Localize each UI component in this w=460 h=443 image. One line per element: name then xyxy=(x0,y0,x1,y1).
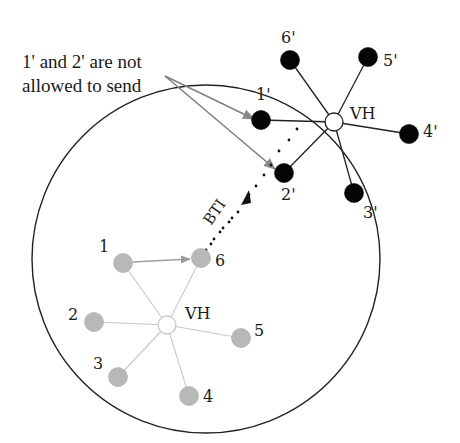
outer-node-label: 6' xyxy=(281,28,296,47)
inner-vh-hub-label: VH xyxy=(184,304,211,323)
outer-node-1-prime xyxy=(252,111,271,130)
pointer-to-1prime xyxy=(165,76,254,119)
outer-node-label: 1' xyxy=(256,85,271,104)
inner-node-label: 5 xyxy=(254,321,264,340)
inner-node-label: 4 xyxy=(203,387,213,406)
outer-cluster: 6'5'1'4'2'3'VH xyxy=(252,28,438,222)
outer-node-label: 4' xyxy=(423,122,438,141)
inner-node-label: 2 xyxy=(68,305,78,324)
inner-node-6 xyxy=(192,249,211,268)
outer-vh-hub xyxy=(325,113,343,131)
inner-node-label: 1 xyxy=(99,237,109,256)
outer-node-5-prime xyxy=(359,48,378,67)
outer-node-2-prime xyxy=(275,164,294,183)
outer-node-label: 3' xyxy=(363,203,378,222)
outer-node-label: 5' xyxy=(383,51,398,70)
outer-node-label: 2' xyxy=(281,185,296,204)
diagram-canvas: 1' and 2' are not allowed to send xyxy=(0,0,460,443)
outer-vh-hub-label: VH xyxy=(349,104,376,123)
inner-node-label: 3 xyxy=(93,354,103,373)
inner-node-1 xyxy=(114,254,133,273)
outer-node-6-prime xyxy=(281,51,300,70)
inner-node-2 xyxy=(85,313,104,332)
inner-node-5 xyxy=(232,329,251,348)
inner-vh-hub xyxy=(158,316,176,334)
network-diagram: BTI 162534VH 6'5'1'4'2'3'VH xyxy=(0,0,460,443)
inner-node-label: 6 xyxy=(215,251,225,270)
inner-node-4 xyxy=(180,387,199,406)
bti-label: BTI xyxy=(200,196,230,228)
outer-node-3-prime xyxy=(345,184,364,203)
arrow-1-to-6 xyxy=(133,259,190,262)
bti-arrowhead xyxy=(241,190,251,205)
inner-node-3 xyxy=(109,368,128,387)
inner-cluster: 162534VH xyxy=(68,237,264,406)
outer-node-4-prime xyxy=(400,125,419,144)
